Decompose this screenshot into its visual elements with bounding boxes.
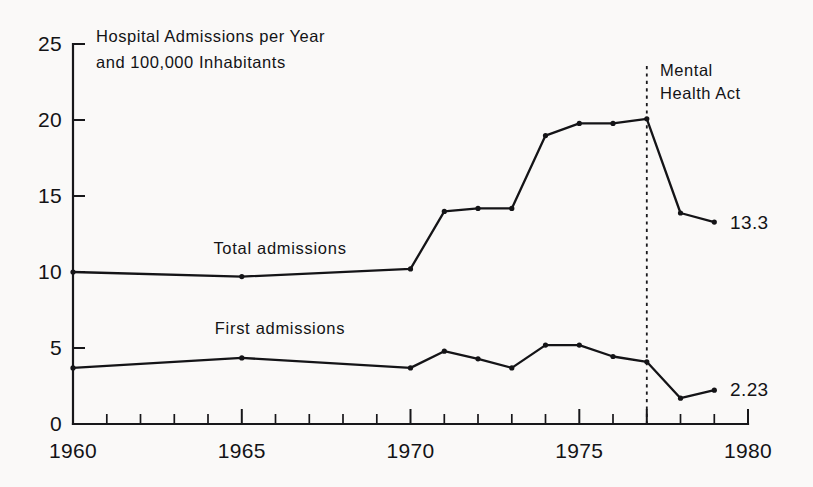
data-point (644, 116, 649, 121)
data-point (475, 206, 480, 211)
chart-page: 0 5 10 15 20 25 (0, 0, 813, 487)
data-point (577, 121, 582, 126)
end-value-label-first-admissions: 2.23 (730, 379, 769, 400)
data-point (408, 266, 413, 271)
data-point (509, 365, 514, 370)
y-tick-label-15: 15 (38, 184, 62, 207)
data-point (610, 121, 615, 126)
data-point (239, 355, 244, 360)
data-point (509, 206, 514, 211)
x-tick-label-1960: 1960 (49, 439, 97, 462)
data-point (712, 220, 717, 225)
data-point (442, 209, 447, 214)
chart-title-line-1: Hospital Admissions per Year (96, 27, 325, 45)
data-point (610, 354, 615, 359)
data-point (70, 365, 75, 370)
data-point (239, 274, 244, 279)
y-tick-label-5: 5 (50, 336, 62, 359)
x-tick-label-1975: 1975 (555, 439, 603, 462)
x-tick-label-1980: 1980 (724, 439, 772, 462)
hospital-admissions-line-chart: 0 5 10 15 20 25 (0, 0, 813, 487)
data-point (712, 388, 717, 393)
data-point (543, 133, 548, 138)
end-value-label-total-admissions: 13.3 (730, 212, 769, 233)
y-tick-label-25: 25 (38, 32, 62, 55)
data-point (678, 210, 683, 215)
data-point (442, 349, 447, 354)
data-point (543, 343, 548, 348)
data-point (644, 359, 649, 364)
series-label-total-admissions: Total admissions (213, 239, 346, 257)
x-tick-label-1970: 1970 (387, 439, 435, 462)
mental-health-act-label-line-2: Health Act (660, 84, 741, 102)
data-point (678, 396, 683, 401)
chart-title-line-2: and 100,000 Inhabitants (96, 53, 286, 71)
y-tick-label-10: 10 (38, 260, 62, 283)
data-point (475, 356, 480, 361)
mental-health-act-label-line-1: Mental (660, 61, 713, 79)
series-label-first-admissions: First admissions (215, 319, 345, 337)
y-tick-label-20: 20 (38, 108, 62, 131)
x-tick-label-1965: 1965 (218, 439, 266, 462)
data-point (577, 343, 582, 348)
y-tick-label-0: 0 (50, 412, 62, 435)
data-point (408, 365, 413, 370)
data-point (70, 269, 75, 274)
